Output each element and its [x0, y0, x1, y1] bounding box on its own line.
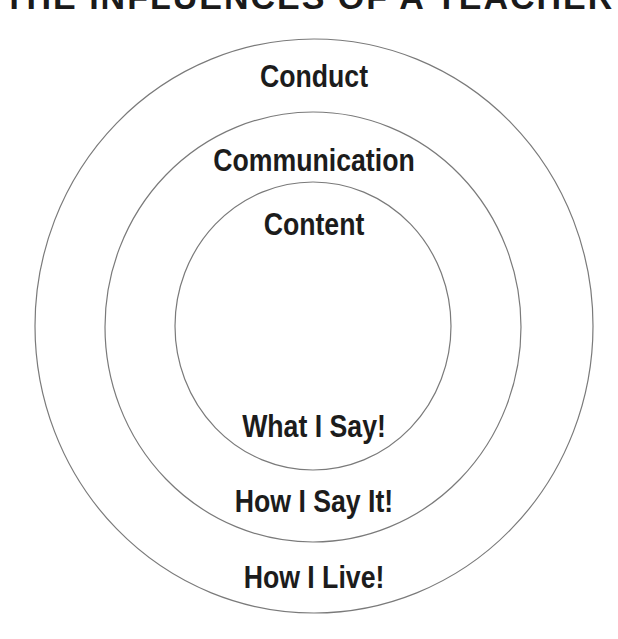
label-conduct: Conduct	[44, 61, 584, 92]
outer-ring	[35, 39, 593, 613]
label-content: Content	[44, 209, 584, 240]
label-how-i-live: How I Live!	[44, 562, 584, 593]
label-how-i-say-it: How I Say It!	[44, 486, 584, 517]
label-communication: Communication	[44, 145, 584, 176]
concentric-circles	[0, 0, 618, 639]
label-what-i-say: What I Say!	[44, 411, 584, 442]
